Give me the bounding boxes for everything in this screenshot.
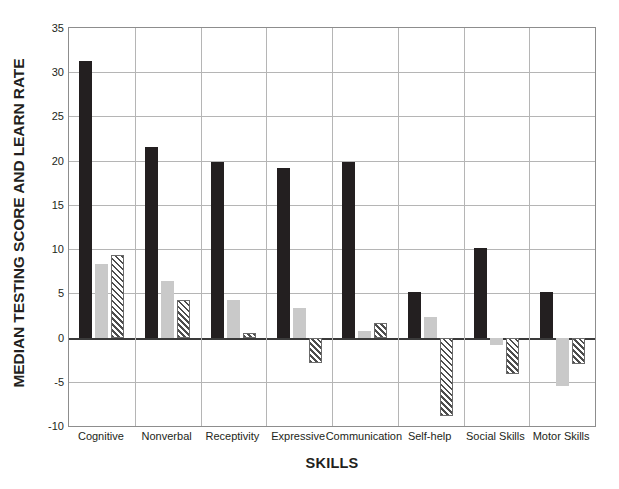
bar — [211, 162, 224, 338]
y-tick-label: -5 — [34, 376, 64, 388]
bar-group — [201, 28, 267, 426]
y-tick-label: 15 — [34, 199, 64, 211]
bar — [342, 162, 355, 338]
bar — [490, 338, 503, 345]
bar-group — [69, 28, 135, 426]
bar — [506, 338, 519, 374]
y-tick-label: -10 — [34, 420, 64, 432]
bar-group — [529, 28, 595, 426]
x-tick-label: Motor Skills — [533, 430, 590, 442]
bar — [111, 255, 124, 337]
bar — [277, 168, 290, 338]
bar — [374, 323, 387, 338]
y-tick-label: 20 — [34, 155, 64, 167]
y-tick-label: 5 — [34, 287, 64, 299]
bar — [358, 331, 371, 337]
plot-area — [68, 27, 596, 427]
y-tick-label: 10 — [34, 243, 64, 255]
bar — [556, 338, 569, 387]
bar — [572, 338, 585, 365]
bar — [227, 300, 240, 338]
x-tick-label: Receptivity — [205, 430, 259, 442]
x-axis-title: SKILLS — [68, 455, 596, 471]
bar — [145, 147, 158, 337]
y-tick-label: 25 — [34, 110, 64, 122]
x-axis-tick-labels: CognitiveNonverbalReceptivityExpressiveC… — [68, 430, 596, 452]
bar-group — [332, 28, 398, 426]
bar — [408, 292, 421, 337]
y-axis-title: MEDIAN TESTING SCORE AND LEARN RATE — [6, 8, 32, 438]
bar — [309, 338, 322, 364]
x-tick-label: Expressive — [271, 430, 325, 442]
bar-group — [266, 28, 332, 426]
bar — [540, 292, 553, 338]
y-tick-label: 0 — [34, 332, 64, 344]
x-tick-label: Communication — [326, 430, 402, 442]
x-tick-label: Cognitive — [78, 430, 124, 442]
bar — [424, 317, 437, 337]
bar — [95, 264, 108, 337]
bar — [474, 248, 487, 337]
x-tick-label: Self-help — [408, 430, 451, 442]
bar-group — [398, 28, 464, 426]
y-tick-label: 30 — [34, 66, 64, 78]
bar-group — [135, 28, 201, 426]
bar — [161, 281, 174, 338]
bar — [293, 308, 306, 337]
bar — [177, 300, 190, 337]
x-tick-label: Social Skills — [466, 430, 525, 442]
bar — [79, 61, 92, 338]
x-tick-label: Nonverbal — [142, 430, 192, 442]
chart-figure: MEDIAN TESTING SCORE AND LEARN RATE 3530… — [0, 0, 619, 489]
bar-group — [464, 28, 530, 426]
y-axis-tick-labels: 35302520151050-5-10 — [30, 0, 64, 489]
y-tick-label: 35 — [34, 22, 64, 34]
bar — [243, 333, 256, 337]
bar — [440, 338, 453, 417]
